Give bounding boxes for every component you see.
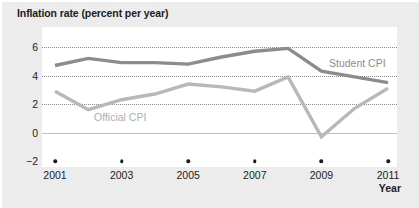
x-tick-label: 2001 <box>43 169 66 181</box>
x-axis-title: Year <box>379 182 401 194</box>
y-tick-label: 6 <box>32 41 38 53</box>
chart-title: Inflation rate (percent per year) <box>17 7 168 19</box>
series-line-official-cpi <box>55 77 388 137</box>
x-tick-label: 2007 <box>243 169 266 181</box>
y-tick-label: 2 <box>32 98 38 110</box>
series-label-student-cpi: Student CPI <box>329 57 386 69</box>
x-tick-label: 2003 <box>110 169 133 181</box>
series-label-official-cpi: Official CPI <box>94 111 146 123</box>
y-tick-label: −2 <box>26 155 38 167</box>
y-tick-label: 4 <box>32 70 38 82</box>
chart-figure: Inflation rate (percent per year) 6420−2… <box>0 0 419 208</box>
x-tick-label: 2005 <box>177 169 200 181</box>
series-lines <box>42 27 397 167</box>
y-tick-label: 0 <box>32 127 38 139</box>
plot-area <box>42 27 397 167</box>
y-axis-tick-labels: 6420−2 <box>14 27 38 167</box>
x-tick-label: 2009 <box>310 169 333 181</box>
x-tick-label: 2011 <box>377 169 400 181</box>
